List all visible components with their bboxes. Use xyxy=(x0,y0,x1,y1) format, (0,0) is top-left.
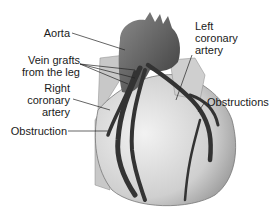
label-left-coronary-1: Left xyxy=(195,20,213,32)
label-right-coronary-1: Right xyxy=(20,82,70,94)
label-left-coronary-3: artery xyxy=(195,44,223,56)
label-aorta: Aorta xyxy=(40,27,70,39)
label-left-coronary-2: coronary xyxy=(195,32,238,44)
label-right-coronary-3: artery xyxy=(20,106,70,118)
label-vein-grafts-2: from the leg xyxy=(20,66,80,78)
label-obstructions: Obstructions xyxy=(207,96,269,108)
label-obstruction: Obstruction xyxy=(5,125,67,137)
label-right-coronary-2: coronary xyxy=(20,94,70,106)
label-vein-grafts-1: Vein grafts xyxy=(20,54,80,66)
